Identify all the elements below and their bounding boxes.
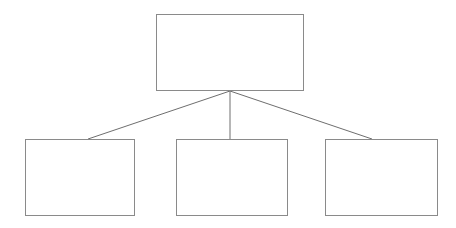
node-child-2[interactable] xyxy=(176,139,288,216)
node-root[interactable] xyxy=(156,14,304,91)
connector-root-to-child-1 xyxy=(88,91,230,139)
node-child-3[interactable] xyxy=(325,139,438,216)
connector-root-to-child-3 xyxy=(230,91,372,139)
diagram-canvas xyxy=(0,0,456,228)
node-child-1[interactable] xyxy=(25,139,135,216)
